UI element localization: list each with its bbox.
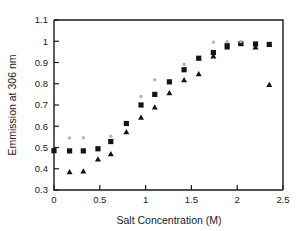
marker-triangle [108,151,114,156]
marker-dot [153,78,156,81]
marker-triangle [196,71,202,76]
marker-triangle [166,90,172,95]
marker-triangle [80,168,86,173]
marker-triangle [67,169,73,174]
y-tick-label: 1 [43,36,48,47]
marker-square [138,102,143,107]
x-tick-label: 1 [143,194,148,205]
marker-square [181,67,186,72]
axis-frame [54,20,283,190]
y-tick-marks [54,20,59,190]
marker-triangle [152,104,158,109]
marker-square [108,139,113,144]
marker-square [95,146,100,151]
series-gray-dots [68,40,243,140]
x-tick-marks [54,185,283,190]
marker-dot [68,136,71,139]
x-tick-label: 0 [51,194,56,205]
x-axis-title: Salt Concentration (M) [116,214,221,226]
x-tick-label: 2 [235,194,240,205]
marker-dot [109,135,112,138]
data-points [51,40,272,174]
marker-triangle [95,156,101,161]
marker-dot [212,40,215,43]
marker-square [67,148,72,153]
marker-triangle [266,82,272,87]
marker-square [152,92,157,97]
marker-square [267,42,272,47]
y-tick-label: 0.4 [35,163,48,174]
marker-square [124,121,129,126]
marker-dot [225,40,228,43]
marker-square [81,148,86,153]
marker-square [196,56,201,61]
y-tick-label: 0.7 [35,99,48,110]
y-tick-label: 0.3 [35,184,48,195]
y-tick-label: 0.9 [35,57,48,68]
x-tick-label: 0.5 [93,194,106,205]
marker-dot [182,62,185,65]
y-tick-label: 0.8 [35,78,48,89]
marker-square [51,148,56,153]
marker-triangle [181,77,187,82]
y-axis-title: Emmission at 306 nm [6,54,18,155]
y-tick-label: 1.1 [35,14,48,25]
scatter-plot: 0.30.40.50.60.70.80.911.1 00.511.522.5 S… [0,0,304,231]
series-triangles [67,40,273,174]
x-tick-label: 1.5 [185,194,198,205]
marker-square [167,79,172,84]
marker-triangle [123,129,129,134]
chart-figure: 0.30.40.50.60.70.80.911.1 00.511.522.5 S… [0,0,304,231]
x-tick-label: 2.5 [276,194,289,205]
marker-dot [239,40,242,43]
y-tick-label: 0.5 [35,142,48,153]
marker-dot [82,136,85,139]
marker-dot [139,95,142,98]
axis-spines [54,20,283,190]
marker-triangle [138,115,144,120]
y-tick-label: 0.6 [35,121,48,132]
axis-frame-top-right [54,20,283,190]
